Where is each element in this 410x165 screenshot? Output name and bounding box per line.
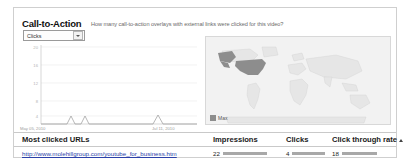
metric-select[interactable]: Clicks bbox=[23, 30, 85, 41]
world-map-svg bbox=[206, 37, 390, 124]
chart-xtick-labels: May 05, 2010 Jul 11, 2010 bbox=[20, 126, 175, 131]
chart-axes bbox=[41, 45, 197, 124]
ytick-label: 4 bbox=[36, 114, 39, 119]
clicks-line-chart: 20 16 12 8 4 May 05, 2010 Jul 11, 2010 bbox=[19, 41, 201, 131]
url-link[interactable]: http://www.molehillgroup.com/youtube_for… bbox=[22, 150, 177, 157]
chart-series-clicks bbox=[41, 115, 197, 124]
ytick-label: 8 bbox=[36, 99, 39, 104]
ytick-label: 16 bbox=[33, 63, 38, 68]
sort-ascending-icon bbox=[399, 139, 403, 142]
geography-map[interactable]: Max bbox=[205, 36, 391, 125]
map-legend-label: Max bbox=[218, 115, 227, 121]
panel-header: Call-to-Action How many call-to-action o… bbox=[22, 14, 390, 28]
cell-impressions: 22 bbox=[213, 150, 267, 157]
column-header-urls[interactable]: Most clicked URLs bbox=[22, 135, 90, 144]
cell-ctr: 18 bbox=[332, 150, 377, 157]
page-title: Call-to-Action bbox=[22, 18, 81, 28]
chart-ytick-labels: 20 16 12 8 4 bbox=[33, 45, 38, 119]
clicks-value: 4 bbox=[286, 150, 289, 157]
impressions-bar bbox=[223, 152, 267, 155]
column-header-ctr-label: Click through rate bbox=[332, 135, 397, 144]
ctr-metric: 18 bbox=[332, 150, 377, 157]
column-header-ctr[interactable]: Click through rate bbox=[332, 135, 403, 144]
caret-shape bbox=[76, 35, 80, 37]
table-header-row: Most clicked URLs Impressions Clicks Cli… bbox=[14, 132, 396, 147]
impressions-metric: 22 bbox=[213, 150, 267, 157]
metric-select-value: Clicks bbox=[24, 33, 73, 39]
ctr-bar bbox=[342, 152, 377, 155]
ytick-label: 20 bbox=[33, 45, 38, 50]
ytick-label: 12 bbox=[33, 81, 38, 86]
column-header-impressions[interactable]: Impressions bbox=[213, 135, 258, 144]
xtick-label-end: Jul 11, 2010 bbox=[152, 126, 175, 131]
chart-svg: 20 16 12 8 4 May 05, 2010 Jul 11, 2010 bbox=[19, 41, 201, 131]
ctr-value: 18 bbox=[332, 150, 339, 157]
cell-clicks: 4 bbox=[286, 150, 325, 157]
impressions-value: 22 bbox=[213, 150, 220, 157]
clicks-bar bbox=[292, 152, 325, 155]
most-clicked-urls-table: Most clicked URLs Impressions Clicks Cli… bbox=[14, 132, 396, 157]
table-row: http://www.molehillgroup.com/youtube_for… bbox=[14, 147, 396, 160]
xtick-label-start: May 05, 2010 bbox=[20, 126, 46, 131]
chart-gridlines bbox=[41, 47, 197, 116]
panel-subtitle: How many call-to-action overlays with ex… bbox=[91, 21, 283, 27]
column-header-clicks[interactable]: Clicks bbox=[286, 135, 308, 144]
legend-swatch-icon bbox=[210, 115, 216, 121]
cell-url: http://www.molehillgroup.com/youtube_for… bbox=[22, 150, 177, 157]
map-legend: Max bbox=[210, 115, 227, 121]
chevron-down-icon[interactable] bbox=[73, 31, 83, 40]
clicks-metric: 4 bbox=[286, 150, 325, 157]
call-to-action-panel: Call-to-Action How many call-to-action o… bbox=[13, 7, 397, 158]
